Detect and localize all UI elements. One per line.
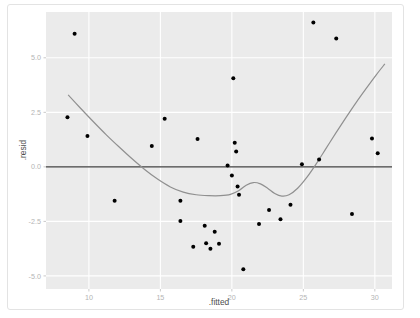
data-point — [230, 174, 234, 178]
data-point — [113, 199, 117, 203]
data-point — [73, 32, 77, 36]
data-point — [350, 212, 354, 216]
data-point — [267, 208, 271, 212]
x-tick-label-3: 25 — [299, 293, 307, 302]
plot-panel-background — [46, 12, 392, 289]
y-tick-label-4: -5.0 — [29, 272, 41, 281]
data-point — [217, 242, 221, 246]
x-axis: 1015202530 — [85, 289, 379, 302]
x-axis-title: .fitted — [209, 297, 230, 307]
plot-area: 1015202530 5.02.50.0-2.5-5.0 .fitted .re… — [0, 0, 420, 318]
data-point — [163, 117, 167, 121]
figure-container: 1015202530 5.02.50.0-2.5-5.0 .fitted .re… — [0, 0, 420, 318]
x-tick-label-4: 30 — [371, 293, 379, 302]
data-point — [317, 157, 321, 161]
data-point — [208, 247, 212, 251]
data-point — [204, 241, 208, 245]
y-tick-label-1: 2.5 — [31, 108, 41, 117]
data-point — [178, 219, 182, 223]
data-point — [203, 224, 207, 228]
data-point — [233, 141, 237, 145]
data-point — [236, 184, 240, 188]
data-point — [234, 150, 238, 154]
y-tick-label-3: -2.5 — [29, 217, 41, 226]
y-axis-title: .resid — [18, 139, 28, 160]
data-point — [278, 217, 282, 221]
data-point — [237, 193, 241, 197]
data-point — [178, 199, 182, 203]
x-tick-label-0: 10 — [85, 293, 93, 302]
data-point — [288, 203, 292, 207]
data-point — [334, 37, 338, 41]
data-point — [376, 151, 380, 155]
data-point — [231, 76, 235, 80]
data-point — [196, 137, 200, 141]
scatter-plot-svg: 1015202530 5.02.50.0-2.5-5.0 .fitted .re… — [0, 0, 420, 318]
data-point — [370, 137, 374, 141]
x-tick-label-1: 15 — [156, 293, 164, 302]
data-point — [241, 267, 245, 271]
data-point — [300, 162, 304, 166]
data-point — [311, 20, 315, 24]
data-point — [85, 134, 89, 138]
data-point — [257, 222, 261, 226]
data-point — [150, 144, 154, 148]
y-tick-label-2: 0.0 — [31, 162, 41, 171]
data-point — [226, 164, 230, 168]
y-tick-label-0: 5.0 — [31, 53, 41, 62]
data-point — [65, 115, 69, 119]
data-point — [191, 245, 195, 249]
data-point — [213, 230, 217, 234]
y-axis: 5.02.50.0-2.5-5.0 — [29, 53, 46, 280]
